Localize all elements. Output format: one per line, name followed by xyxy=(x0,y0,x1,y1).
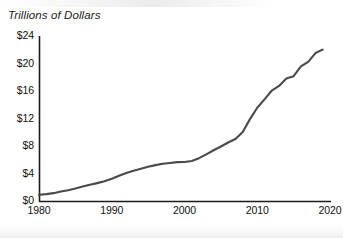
axes-group xyxy=(39,36,331,202)
x-tick-label: 2010 xyxy=(237,204,277,216)
y-tick-label: $16 xyxy=(1,84,34,96)
chart-container: Trillions of Dollars $0$4$8$12$16$20$24 … xyxy=(0,0,343,238)
series-line-gross-federal-debt xyxy=(39,50,323,195)
y-tick-label: $20 xyxy=(1,57,34,69)
y-tick-label: $8 xyxy=(1,139,34,151)
plot-area xyxy=(0,0,343,238)
data-series-group xyxy=(39,50,323,195)
y-tick-label: $12 xyxy=(1,112,34,124)
x-tick-label: 1980 xyxy=(19,204,59,216)
x-tick-label: 1990 xyxy=(92,204,132,216)
x-tick-label: 2020 xyxy=(310,204,343,216)
y-tick-label: $4 xyxy=(1,167,34,179)
x-tick-label: 2000 xyxy=(165,204,205,216)
y-tick-label: $24 xyxy=(1,29,34,41)
